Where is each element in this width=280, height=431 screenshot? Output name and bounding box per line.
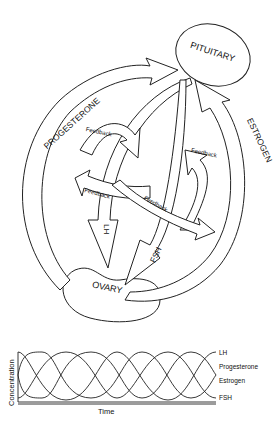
legend-fsh: FSH [219,394,232,401]
y-axis-label: Concentration [7,359,16,406]
legend-lh: LH [219,349,228,356]
x-axis-label: Time [98,407,114,416]
lh-label: LH [102,224,111,234]
legend-estrogen: Estrogen [219,377,245,385]
estrogen-label: ESTROGEN [245,116,274,163]
feedback-arrow-2 [180,150,207,230]
feedback-diagram: PITUITARY OVARY PROGESTERONE ESTROGEN LH… [0,0,280,431]
series-lh [18,352,216,400]
legend-progesterone: Progesterone [219,363,258,371]
hormone-chart [18,352,216,404]
